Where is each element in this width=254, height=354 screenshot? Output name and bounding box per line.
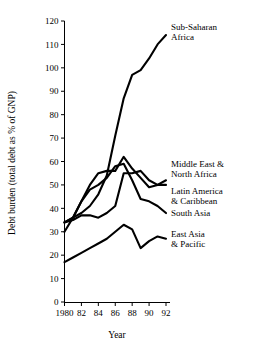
series-label-line1: East Asia — [171, 229, 205, 239]
x-tick-label: 90 — [145, 308, 155, 318]
series-label-line1: Sub-Saharan — [171, 22, 217, 32]
y-tick-label: 60 — [50, 157, 60, 167]
series-label-line2: Africa — [171, 32, 194, 42]
y-tick-label: 20 — [50, 250, 60, 260]
x-tick-label: 82 — [77, 308, 86, 318]
series-label-sub-saharan-africa: Sub-SaharanAfrica — [171, 22, 217, 43]
y-tick-label: 70 — [50, 133, 60, 143]
debt-burden-line-chart: 0102030405060708090100110120 19808284868… — [0, 0, 254, 354]
y-tick-label: 10 — [50, 274, 60, 284]
y-tick-label: 100 — [45, 63, 59, 73]
series-label-middle-east-north-africa: Middle East &North Africa — [171, 159, 224, 180]
x-tick-label: 86 — [111, 308, 121, 318]
series-label-line2: North Africa — [171, 169, 217, 179]
y-tick-label: 30 — [50, 227, 60, 237]
y-axis-title: Debt burden (total debt as % of GNP) — [7, 91, 18, 235]
series-line-sub-saharan-africa — [65, 35, 167, 222]
series-label-line1: Latin America — [171, 186, 223, 196]
series-label-line2: & Pacific — [171, 239, 205, 249]
series-label-line1: South Asia — [171, 208, 210, 218]
x-axis-title: Year — [108, 330, 126, 340]
y-tick-label: 50 — [50, 180, 60, 190]
x-tick-label: 92 — [162, 308, 171, 318]
y-tick-marks — [61, 21, 65, 302]
y-tick-label: 0 — [54, 297, 59, 307]
x-tick-label: 88 — [128, 308, 138, 318]
series-label-line2: & Caribbean — [171, 196, 217, 206]
series-label-east-asia-pacific: East Asia& Pacific — [171, 229, 205, 250]
series-label-latin-america-caribbean: Latin America& Caribbean — [171, 186, 223, 207]
y-tick-label: 120 — [45, 16, 59, 26]
series-line-latin-america-caribbean — [65, 157, 167, 232]
y-tick-labels: 0102030405060708090100110120 — [45, 16, 59, 307]
y-tick-label: 90 — [50, 86, 60, 96]
x-tick-labels: 1980828486889092 — [56, 308, 171, 318]
x-tick-label: 1980 — [56, 308, 75, 318]
series-lines — [65, 35, 167, 262]
series-label-south-asia: South Asia — [171, 208, 210, 218]
y-tick-label: 110 — [45, 40, 59, 50]
y-tick-label: 40 — [50, 204, 60, 214]
series-line-east-asia-pacific — [65, 225, 167, 262]
series-label-line1: Middle East & — [171, 159, 224, 169]
y-tick-label: 80 — [50, 110, 60, 120]
x-tick-label: 84 — [94, 308, 104, 318]
